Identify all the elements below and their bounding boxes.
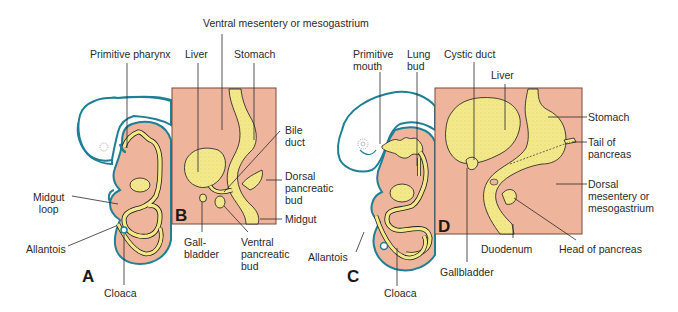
label-ventral-mesentery: Ventral mesentery or mesogastrium	[203, 17, 369, 29]
label-midgut: Midgut	[285, 213, 317, 225]
label-allantois-a: Allantois	[26, 243, 66, 255]
label-duodenum: Duodenum	[481, 243, 532, 255]
panel-a-liver-bud	[130, 178, 150, 192]
panel-b-inset	[172, 88, 276, 224]
label-liver-b: Liver	[185, 48, 208, 60]
label-allantois-c: Allantois	[308, 251, 348, 263]
label-liver-d: Liver	[491, 69, 514, 81]
label-cloaca-a: Cloaca	[104, 287, 137, 299]
label-primitive-mouth: Primitive mouth	[353, 48, 393, 72]
label-cloaca-c: Cloaca	[384, 287, 417, 299]
panel-letter-c: C	[347, 268, 359, 285]
panel-c-embryo	[338, 92, 435, 271]
label-primitive-pharynx: Primitive pharynx	[90, 48, 171, 60]
label-dorsal-mesentery: Dorsal mesentery or mesogastrium	[588, 178, 654, 214]
panel-b-ventral-pancreatic-bud	[215, 196, 225, 208]
label-tail-of-pancreas: Tail of pancreas	[588, 136, 631, 160]
panel-letter-a: A	[82, 268, 94, 285]
panel-b-gallbladder	[200, 194, 207, 202]
label-midgut-loop: Midgut loop	[33, 191, 65, 215]
panel-letter-b: B	[175, 207, 187, 224]
panel-c-liver	[390, 184, 414, 202]
label-lung-bud: Lung bud	[407, 48, 430, 72]
label-stomach-b: Stomach	[234, 48, 275, 60]
label-cystic-duct: Cystic duct	[444, 48, 495, 60]
panel-d-gallbladder	[466, 157, 478, 169]
embryo-digestive-diagram	[0, 0, 678, 312]
label-stomach-d: Stomach	[588, 111, 629, 123]
label-ventral-pancreatic-bud: Ventral pancreatic bud	[241, 236, 289, 272]
panel-d-inset	[435, 88, 582, 234]
panel-letter-d: D	[438, 218, 450, 235]
label-gallbladder-d: Gallbladder	[440, 266, 494, 278]
label-head-of-pancreas: Head of pancreas	[559, 243, 642, 255]
label-bile-duct: Bile duct	[285, 124, 305, 148]
label-dorsal-pancreatic-bud: Dorsal pancreatic bud	[285, 170, 333, 206]
label-gallbladder-b: Gall- bladder	[184, 236, 219, 260]
